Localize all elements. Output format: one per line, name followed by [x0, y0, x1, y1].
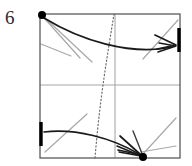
crease-tr-1 [143, 20, 178, 59]
top-left-corner-dot [38, 11, 46, 19]
crease-tl-3 [41, 44, 71, 56]
top-fold-arrow-shaft [44, 18, 172, 50]
step-number-label: 6 [5, 8, 15, 27]
origami-svg-canvas [0, 0, 192, 166]
origami-diagram: 6 [0, 0, 192, 166]
bottom-edge-target-dot [139, 153, 147, 161]
crease-br-2 [141, 146, 176, 152]
bottom-fold-arrow-shaft [44, 131, 139, 154]
